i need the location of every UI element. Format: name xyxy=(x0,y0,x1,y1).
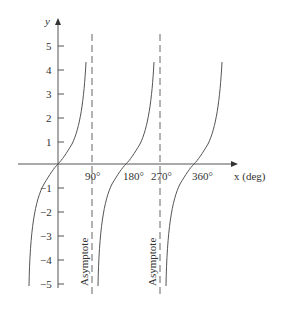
y-tick-label: 5 xyxy=(46,40,52,52)
y-axis-label: y xyxy=(44,15,50,27)
y-tick-label: 1 xyxy=(46,136,52,148)
tangent-chart: y 5 4 3 2 1 −1 −2 −3 −4 −5 90° 180° 270°… xyxy=(0,0,281,314)
x-tick-label: 270° xyxy=(151,170,172,182)
x-tick-label: 90° xyxy=(85,170,100,182)
y-tick-label: 4 xyxy=(46,64,52,76)
x-tick-label: 180° xyxy=(123,170,144,182)
x-axis-arrow-icon xyxy=(231,161,238,167)
y-tick-label: −4 xyxy=(40,254,52,266)
y-tick-label: 3 xyxy=(46,88,52,100)
asymptote-label: Asymptote xyxy=(146,238,158,286)
asymptote-label: Asymptote xyxy=(78,238,90,286)
y-tick-label: 2 xyxy=(46,112,52,124)
y-tick-label: −5 xyxy=(40,278,52,290)
x-tick-label: 360° xyxy=(192,170,213,182)
y-tick-label: −2 xyxy=(40,206,52,218)
x-axis-label: x (deg) xyxy=(234,170,266,183)
y-ticks xyxy=(58,46,64,284)
y-tick-label: −3 xyxy=(40,230,52,242)
y-axis-arrow-icon xyxy=(55,18,61,25)
